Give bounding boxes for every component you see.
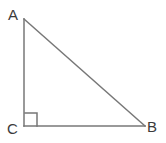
vertex-label-b: B [147, 119, 157, 134]
triangle-drawing [0, 0, 166, 143]
vertex-label-c: C [7, 121, 18, 136]
right-triangle-figure: A C B [0, 0, 166, 143]
right-angle-marker-icon [25, 113, 37, 126]
hypotenuse-ab-line [24, 19, 145, 126]
vertex-label-a: A [8, 7, 18, 22]
